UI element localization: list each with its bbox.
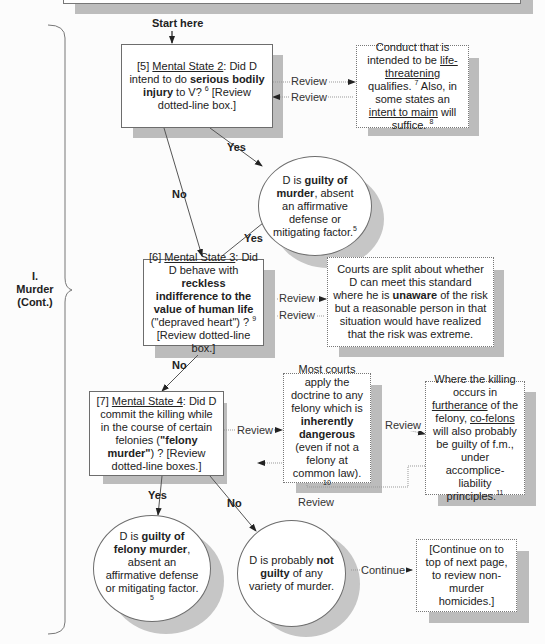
review-label-note1-out: Review — [384, 419, 422, 431]
guilty-murder-text: D is guilty of murder, absent an affirma… — [269, 174, 361, 239]
previous-box — [63, 0, 521, 4]
not-guilty-outcome: D is probably not guilty of any variety … — [237, 520, 346, 627]
start-label: Start here — [152, 17, 203, 29]
edge-yes-ms2: Yes — [227, 141, 246, 153]
guilty-felony-text: D is guilty of felony murder, absent an … — [104, 530, 200, 608]
ms4-text: [7] Mental State 4: Did D commit the kil… — [95, 395, 218, 473]
guilty-of-murder-outcome: D is guilty of murder, absent an affirma… — [258, 156, 372, 256]
edge-yes-ms3: Yes — [244, 232, 263, 244]
ms4-note2-text: Where the killing occurs in furtherance … — [431, 373, 519, 503]
edge-yes-ms4: Yes — [148, 489, 167, 501]
ms4-note1-text: Most courts apply the doctrine to any fe… — [289, 363, 365, 493]
review-label-ms3-in: Review — [278, 309, 316, 321]
not-guilty-text: D is probably not guilty of any variety … — [248, 554, 335, 593]
mental-state-3-box[interactable]: [6] Mental State 3: Did D behave with re… — [143, 259, 264, 346]
mental-state-4-box[interactable]: [7] Mental State 4: Did D commit the kil… — [89, 391, 224, 476]
edge-no-ms4: No — [227, 497, 242, 509]
review-label-ms2-out: Review — [290, 75, 328, 87]
section-bracket — [48, 25, 72, 634]
guilty-of-felony-murder-outcome: D is guilty of felony murder, absent an … — [93, 515, 211, 622]
continue-label: Continue — [360, 564, 406, 576]
ms2-text: [5] Mental State 2: Did D intend to do s… — [127, 60, 267, 112]
continue-text: [Continue on to top of next page, to rev… — [422, 543, 511, 608]
ms3-note-text: Courts are split about whether D can mee… — [333, 263, 488, 341]
review-label-feedback: Review — [297, 496, 335, 508]
edge-no-ms3: No — [172, 359, 187, 371]
mental-state-2-box[interactable]: [5] Mental State 2: Did D intend to do s… — [121, 44, 273, 128]
ms4-note2-box: Where the killing occurs in furtherance … — [425, 381, 525, 495]
ms2-note-text: Conduct that is intended to be life-thre… — [362, 41, 463, 132]
continue-box[interactable]: [Continue on to top of next page, to rev… — [416, 539, 517, 612]
ms4-note1-box: Most courts apply the doctrine to any fe… — [283, 373, 371, 483]
ms3-text: [6] Mental State 3: Did D behave with re… — [149, 251, 258, 355]
edge-no-ms2: No — [172, 188, 187, 200]
review-label-ms4-out: Review — [236, 424, 274, 436]
review-label-ms2-in: Review — [290, 91, 328, 103]
ms2-note-box: Conduct that is intended to be life-thre… — [356, 45, 469, 128]
review-label-ms3-out: Review — [278, 292, 316, 304]
ms3-note-box: Courts are split about whether D can mee… — [327, 257, 494, 347]
